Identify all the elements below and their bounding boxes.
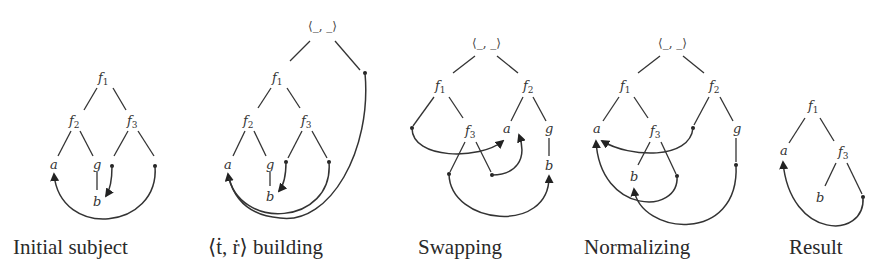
pointer-arrow xyxy=(228,162,329,214)
node-a: a xyxy=(593,121,601,136)
node-f2: f2 xyxy=(242,113,254,130)
edge xyxy=(476,142,491,172)
node-f3: f3 xyxy=(649,123,661,140)
node-f2: f2 xyxy=(522,78,534,95)
edge xyxy=(258,88,271,108)
pointer-arrow xyxy=(492,135,522,175)
edge xyxy=(720,97,733,121)
caption-initial-subject: Initial subject xyxy=(13,235,128,259)
pointer-arrow xyxy=(634,165,736,224)
panel-initial-subject: f1 f2 f3 a g b xyxy=(50,70,157,219)
edge xyxy=(58,131,71,156)
edge xyxy=(449,97,463,118)
edge xyxy=(634,97,648,118)
edge xyxy=(413,97,434,126)
edge xyxy=(638,56,660,73)
edge xyxy=(789,118,805,143)
node-a: a xyxy=(50,157,58,172)
node-f1: f1 xyxy=(807,98,819,115)
node-f2: f2 xyxy=(68,113,80,130)
pointer-arrow xyxy=(412,128,503,154)
edge xyxy=(80,131,93,156)
node-f3: f3 xyxy=(300,113,312,130)
edge xyxy=(114,131,128,156)
node-f1: f1 xyxy=(271,70,283,87)
node-f3: f3 xyxy=(126,113,138,130)
pointer-arrow xyxy=(54,166,155,219)
edge xyxy=(312,131,327,158)
pointer-arrow xyxy=(602,128,693,153)
node-f1: f1 xyxy=(434,78,446,95)
edge xyxy=(254,131,266,156)
node-a: a xyxy=(503,121,511,136)
pointer-arrow xyxy=(106,166,112,196)
edge xyxy=(603,97,619,121)
edge xyxy=(453,56,475,73)
node-f2: f2 xyxy=(708,78,720,95)
node-pair: ⟨_, _⟩ xyxy=(472,36,501,50)
node-f1: f1 xyxy=(619,78,631,95)
node-b: b xyxy=(630,169,638,184)
caption-tr-building: ⟨ṫ, ṙ⟩ building xyxy=(208,235,323,259)
caption-result: Result xyxy=(789,235,843,259)
panel-swapping: ⟨_, _⟩ f1 f2 f3 a g b xyxy=(410,36,553,216)
node-g: g xyxy=(545,121,553,136)
edge xyxy=(450,142,465,172)
pointer-arrow xyxy=(449,174,549,216)
edge xyxy=(335,41,360,70)
edge xyxy=(825,163,836,186)
edge xyxy=(683,56,704,73)
node-b: b xyxy=(266,189,274,204)
node-a: a xyxy=(224,157,232,172)
edge xyxy=(694,97,709,125)
pointer-arrow xyxy=(279,162,286,191)
edge xyxy=(847,163,862,194)
term-graph-transformation-figure: f1 f2 f3 a g b ⟨_, _⟩ f1 f2 f3 a g b xyxy=(0,0,894,279)
caption-normalizing: Normalizing xyxy=(584,235,691,259)
edge xyxy=(233,131,245,156)
caption-swapping: Swapping xyxy=(418,235,503,259)
edge xyxy=(138,131,154,156)
node-f3: f3 xyxy=(464,123,476,140)
edge xyxy=(820,118,834,141)
panel-tr-building: ⟨_, _⟩ f1 f2 f3 a g b xyxy=(224,19,367,218)
node-pair: ⟨_, _⟩ xyxy=(658,36,687,50)
node-g: g xyxy=(266,157,274,172)
edge xyxy=(288,131,302,158)
node-b: b xyxy=(93,194,101,209)
node-b: b xyxy=(545,158,553,173)
node-g: g xyxy=(733,121,741,136)
edge xyxy=(287,88,300,108)
panel-normalizing: ⟨_, _⟩ f1 f2 f3 a g b xyxy=(593,36,741,224)
node-f3: f3 xyxy=(837,144,849,161)
node-a: a xyxy=(780,143,788,158)
edge xyxy=(497,56,518,73)
node-b: b xyxy=(816,190,824,205)
edge xyxy=(661,142,676,174)
panel-result: f1 f3 a b xyxy=(780,98,865,226)
edge xyxy=(533,97,546,121)
edge xyxy=(290,41,310,61)
node-pair: ⟨_, _⟩ xyxy=(308,19,337,33)
node-g: g xyxy=(93,157,101,172)
edge xyxy=(84,88,97,110)
edge xyxy=(511,97,523,121)
edge xyxy=(113,88,126,110)
pointer-arrow xyxy=(229,73,366,218)
node-f1: f1 xyxy=(97,70,109,87)
